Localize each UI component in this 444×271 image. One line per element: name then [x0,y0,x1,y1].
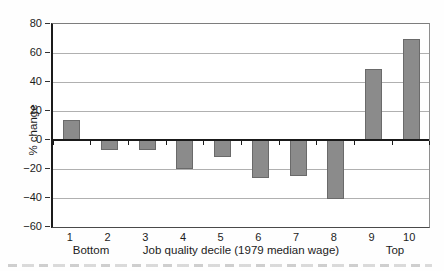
x-axis-tick [354,141,355,145]
x-tick-label: 8 [331,231,337,243]
x-axis-tick [166,141,167,145]
gridline [53,53,429,54]
x-axis-tick [128,141,129,145]
x-axis-title: Job quality decile (1979 median wage) [143,244,339,257]
x-axis-tick [53,141,54,145]
bar-decile-6 [252,140,269,178]
y-tick-label: 0 [12,133,42,145]
x-axis-top-end-label: Top [386,244,405,257]
x-axis-tick [316,141,317,145]
x-axis-tick [203,141,204,145]
y-axis-tick [45,110,50,111]
y-tick-label: 80 [12,17,42,29]
bar-decile-1 [63,120,80,140]
x-axis-bottom-end-label: Bottom [73,244,109,257]
x-tick-label: 1 [67,231,73,243]
x-axis-tick [279,141,280,145]
x-tick-label: 10 [403,231,415,243]
plot-area [51,23,430,228]
y-axis-tick [45,81,50,82]
x-tick-label: 2 [104,231,110,243]
y-axis-tick [45,139,50,140]
figure-page: % change Bottom Job quality decile (1979… [0,0,444,271]
bar-decile-9 [365,69,382,140]
cropped-caption-line [8,264,432,267]
bar-decile-2 [101,140,118,150]
x-tick-label: 7 [293,231,299,243]
bar-decile-8 [327,140,344,199]
y-tick-label: −40 [12,191,42,203]
y-tick-label: 60 [12,46,42,58]
x-tick-label: 9 [368,231,374,243]
y-tick-label: 40 [12,75,42,87]
y-axis-tick [45,168,50,169]
x-tick-label: 4 [180,231,186,243]
x-axis-tick [429,141,430,145]
x-tick-label: 6 [255,231,261,243]
gridline [53,198,429,199]
bar-decile-5 [214,140,231,157]
bar-decile-7 [290,140,307,176]
y-tick-label: −20 [12,162,42,174]
x-tick-label: 3 [142,231,148,243]
x-axis-tick [392,141,393,145]
y-axis-tick [45,197,50,198]
y-axis-tick [45,23,50,24]
x-axis-tick [90,141,91,145]
y-axis-tick [45,226,50,227]
y-axis-tick [45,52,50,53]
x-tick-label: 5 [218,231,224,243]
bar-decile-10 [403,39,420,141]
y-tick-label: −60 [12,220,42,232]
bar-decile-4 [176,140,193,169]
x-axis-tick [241,141,242,145]
bar-decile-3 [139,140,156,150]
y-tick-label: 20 [12,104,42,116]
gridline [53,169,429,170]
